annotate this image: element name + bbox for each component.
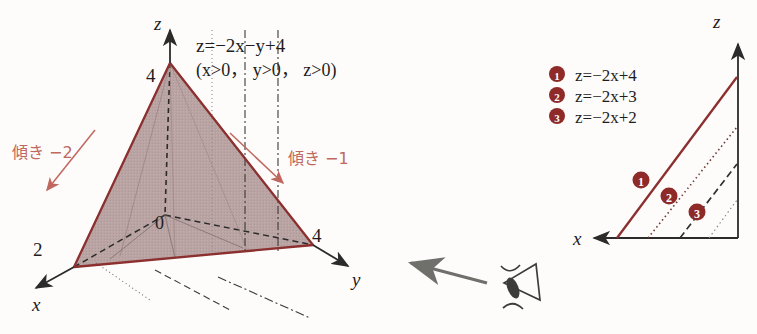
guide-line-dashdot-ext bbox=[218, 277, 310, 318]
y-axis-label: y bbox=[350, 269, 361, 290]
legend-equation-2: z=−2x+3 bbox=[575, 87, 637, 106]
guide-line-dashed-ext bbox=[155, 270, 232, 311]
legend-badge-3-text: 3 bbox=[554, 112, 560, 124]
legend-badge-1-text: 1 bbox=[554, 70, 560, 82]
x-tick-label: 2 bbox=[33, 239, 43, 260]
z-tick-label: 4 bbox=[146, 65, 156, 86]
legend-badge-2-text: 2 bbox=[554, 91, 560, 103]
y-tick-label: 4 bbox=[312, 225, 322, 246]
z-axis-label: z bbox=[153, 13, 162, 34]
cross-line-3 bbox=[680, 164, 737, 238]
z-axis-label-right: z bbox=[712, 11, 721, 32]
center-panel-group bbox=[411, 263, 540, 309]
view-direction-arrow bbox=[411, 263, 487, 283]
figure-root: z=−2x−y+4 (x>0， y>0， z>0) 4 z 2 x 4 y 0 … bbox=[0, 0, 757, 334]
inline-marker-2-text: 2 bbox=[666, 191, 672, 205]
legend-equation-1: z=−2x+4 bbox=[575, 66, 637, 85]
slope-left-label: 傾き −2 bbox=[12, 143, 73, 162]
inline-marker-1-text: 1 bbox=[638, 175, 644, 189]
diagram-canvas: z=−2x−y+4 (x>0， y>0， z>0) 4 z 2 x 4 y 0 … bbox=[0, 0, 757, 334]
slope-right-label: 傾き −1 bbox=[288, 149, 349, 168]
x-axis-label: x bbox=[31, 294, 41, 315]
axis-x bbox=[36, 267, 74, 288]
inline-marker-3-text: 3 bbox=[694, 207, 700, 221]
eye-icon bbox=[501, 264, 540, 309]
x-axis-label-right: x bbox=[572, 228, 582, 249]
plane-equation: z=−2x−y+4 bbox=[196, 35, 286, 56]
legend-equation-3: z=−2x+2 bbox=[575, 108, 637, 127]
cross-line-4 bbox=[709, 200, 737, 238]
origin-label: 0 bbox=[155, 213, 164, 233]
plane-domain-condition: (x>0， y>0， z>0) bbox=[196, 60, 336, 81]
guide-line-dotted-ext bbox=[96, 263, 150, 300]
axis-y bbox=[313, 245, 348, 266]
